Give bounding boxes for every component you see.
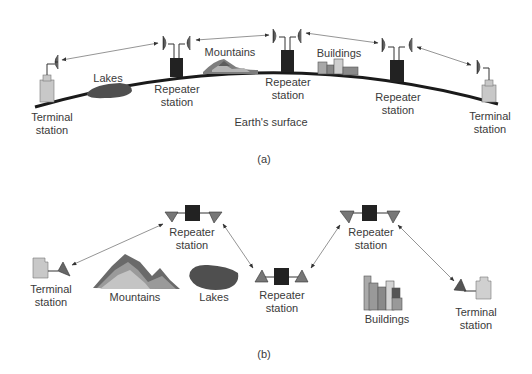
terminal-station-b-left xyxy=(33,258,70,278)
caption-a: (a) xyxy=(252,153,276,166)
label-terminal-right-a: Terminal station xyxy=(462,110,518,136)
label-buildings-b: Buildings xyxy=(357,313,417,326)
label-mountains-b: Mountains xyxy=(102,291,168,304)
terminal-station-right xyxy=(477,60,496,102)
buildings-icon xyxy=(318,59,358,75)
repeater-station-b2 xyxy=(255,268,308,285)
label-repeater-2-a: Repeater station xyxy=(262,76,314,102)
lake-shape xyxy=(87,83,132,98)
label-lakes-b: Lakes xyxy=(196,291,232,304)
label-repeater-3-a: Repeater station xyxy=(372,91,424,117)
label-terminal-right-b: Terminal station xyxy=(446,306,506,332)
lake-shape-b xyxy=(189,265,238,290)
repeater-station-b3 xyxy=(340,205,400,223)
label-lakes-a: Lakes xyxy=(88,72,128,85)
repeater-station-b1 xyxy=(165,205,222,223)
label-repeater-3-b: Repeater station xyxy=(339,226,403,252)
repeater-station-a1 xyxy=(163,36,190,77)
label-repeater-1-b: Repeater station xyxy=(162,226,222,252)
buildings-icon-b xyxy=(364,276,402,310)
mountains-icon xyxy=(203,59,258,74)
label-terminal-left-a: Terminal station xyxy=(26,111,78,137)
label-terminal-left-b: Terminal station xyxy=(24,283,78,309)
label-repeater-1-a: Repeater station xyxy=(151,83,203,109)
terminal-station-b-right xyxy=(454,277,491,299)
label-earth-surface: Earth's surface xyxy=(226,116,316,129)
repeater-station-a3 xyxy=(382,38,412,82)
terminal-station-left xyxy=(40,55,58,102)
caption-b: (b) xyxy=(252,348,276,361)
label-repeater-2-b: Repeater station xyxy=(252,289,312,315)
label-mountains-a: Mountains xyxy=(200,46,260,59)
mountains-icon-b xyxy=(93,254,180,289)
label-buildings-a: Buildings xyxy=(313,47,365,60)
repeater-station-a2 xyxy=(273,29,301,72)
